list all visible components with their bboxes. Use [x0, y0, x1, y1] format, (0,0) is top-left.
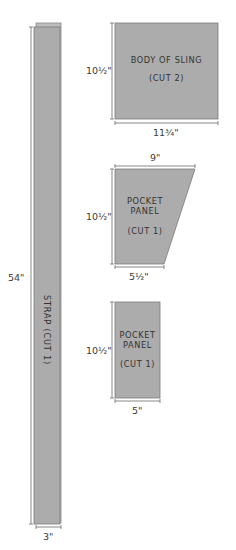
- body-of-sling-label: BODY OF SLING (CUT 2): [115, 55, 218, 84]
- strap-piece: [29, 23, 61, 529]
- strap-width-label: 3": [43, 532, 53, 542]
- pocket-panel-trapezoid-top-width-label: 9": [150, 153, 160, 163]
- pocket-panel-trapezoid-label-line2: PANEL: [115, 206, 175, 216]
- pocket-panel-trapezoid-label-line1: POCKET: [115, 196, 175, 206]
- pocket-panel-rect-label: POCKET PANEL (CUT 1): [115, 330, 160, 369]
- body-of-sling-height-label: 10½": [86, 66, 112, 76]
- pocket-panel-trapezoid-height-label: 10½": [86, 212, 112, 222]
- body-of-sling-label-line1: BODY OF SLING: [115, 55, 218, 65]
- pocket-panel-rect-label-line3: (CUT 1): [115, 359, 160, 369]
- body-of-sling-width-label: 11¾": [153, 128, 179, 138]
- pocket-panel-trapezoid-label: POCKET PANEL (CUT 1): [115, 196, 175, 236]
- strap-length-label: 54": [8, 273, 24, 283]
- pocket-panel-rect-height-label: 10½": [86, 346, 112, 356]
- strap-label: STRAP (CUT 1): [42, 295, 52, 365]
- pocket-panel-rect-label-line2: PANEL: [115, 340, 160, 350]
- pocket-panel-trapezoid-bottom-width-label: 5½": [129, 272, 149, 282]
- body-of-sling-label-line2: (CUT 2): [115, 73, 218, 83]
- pocket-panel-rect-label-line1: POCKET: [115, 330, 160, 340]
- pocket-panel-rect-width-label: 5": [132, 406, 142, 416]
- pocket-panel-trapezoid-label-line3: (CUT 1): [115, 226, 175, 236]
